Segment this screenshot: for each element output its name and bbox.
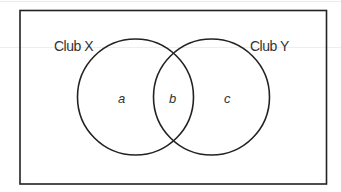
region-label-intersection: b: [169, 91, 176, 106]
set-label-club-x: Club X: [54, 38, 94, 54]
venn-diagram: Club X Club Y a b c: [0, 0, 341, 192]
set-label-club-y: Club Y: [250, 38, 290, 54]
region-label-only-y: c: [224, 91, 231, 106]
region-label-only-x: a: [118, 91, 125, 106]
